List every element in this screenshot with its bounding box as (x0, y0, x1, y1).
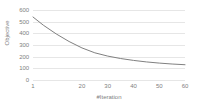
objective-line-series (33, 10, 185, 80)
x-tick-label-1: 1 (31, 83, 34, 89)
y-tick-label-200: 200 (19, 54, 29, 60)
y-axis-tick-labels: 0100200300400500600 (0, 10, 29, 80)
y-tick-label-500: 500 (19, 19, 29, 25)
y-tick-label-100: 100 (19, 65, 29, 71)
x-tick-label-50: 50 (156, 83, 163, 89)
plot-area (33, 10, 185, 80)
x-axis-tick-labels: 12030405060 (33, 83, 185, 92)
x-tick-label-60: 60 (182, 83, 189, 89)
y-tick-label-400: 400 (19, 30, 29, 36)
gridline-y-0 (33, 80, 185, 81)
y-tick-label-600: 600 (19, 7, 29, 13)
x-tick-label-30: 30 (104, 83, 111, 89)
y-tick-label-300: 300 (19, 42, 29, 48)
y-tick-label-0: 0 (26, 77, 29, 83)
x-axis-title: #Iteration (33, 94, 185, 100)
objective-convergence-chart: Objective 0100200300400500600 1203040506… (0, 0, 198, 108)
series-polyline (33, 17, 185, 65)
x-tick-label-40: 40 (130, 83, 137, 89)
x-tick-label-20: 20 (79, 83, 86, 89)
